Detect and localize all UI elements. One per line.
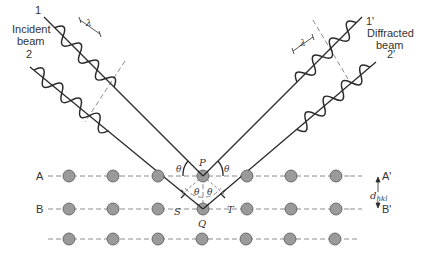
atom bbox=[107, 170, 119, 182]
atom bbox=[152, 170, 164, 182]
atom bbox=[330, 170, 342, 182]
incident-text-line1: Incident bbox=[12, 23, 51, 35]
arrow-head-down bbox=[376, 203, 380, 208]
incident-beam-2 bbox=[30, 67, 203, 209]
angle-arc-left bbox=[183, 161, 188, 176]
wavelength-markers bbox=[79, 17, 314, 54]
atom bbox=[107, 233, 119, 245]
atom bbox=[241, 170, 253, 182]
atom bbox=[285, 170, 297, 182]
angle-arc-right bbox=[218, 161, 223, 176]
incident-lambda-tick-right bbox=[99, 31, 101, 37]
atom bbox=[285, 203, 297, 215]
point-s-label: S bbox=[174, 206, 181, 217]
arrow-head-up bbox=[376, 177, 380, 182]
atom bbox=[196, 233, 208, 245]
atom bbox=[63, 170, 75, 182]
diagram-canvas: λ λ 1 Incident bbox=[0, 0, 425, 263]
spacing-d-label: dhkl bbox=[370, 190, 387, 203]
incident-beam-1-label: 1 bbox=[35, 4, 41, 16]
plane-b-label: B bbox=[36, 203, 43, 215]
atom bbox=[240, 233, 252, 245]
incident-beam-2-label: 2 bbox=[26, 48, 32, 60]
diffracted-lambda-tick-left bbox=[292, 48, 294, 54]
atom bbox=[63, 203, 75, 215]
spacing-arrow bbox=[376, 177, 380, 208]
diffracted-beam-2-label: 2' bbox=[387, 48, 395, 60]
diffracted-wavefront bbox=[313, 20, 348, 79]
atom bbox=[107, 203, 119, 215]
incident-beam-1 bbox=[44, 17, 203, 176]
diffracted-text-line1: Diffracted bbox=[367, 27, 414, 39]
incident-text-line2: beam bbox=[17, 35, 45, 47]
diffracted-lambda-tick-right bbox=[312, 34, 314, 40]
bragg-diffraction-diagram: λ λ 1 Incident bbox=[0, 0, 425, 263]
point-p-label: P bbox=[198, 157, 206, 168]
incident-lambda-symbol: λ bbox=[85, 18, 92, 28]
point-q-label: Q bbox=[198, 218, 206, 229]
atoms bbox=[63, 170, 342, 245]
plane-a-label: A bbox=[36, 170, 44, 182]
plane-a-prime-label: A' bbox=[382, 170, 391, 182]
atom bbox=[152, 233, 164, 245]
atom bbox=[284, 233, 296, 245]
atom bbox=[241, 203, 253, 215]
diffracted-beam-1-label: 1' bbox=[366, 15, 374, 27]
theta-lower-right: θ bbox=[207, 187, 213, 197]
atom bbox=[63, 233, 75, 245]
theta-diffracted: θ bbox=[224, 164, 230, 174]
atom bbox=[152, 203, 164, 215]
atom bbox=[330, 203, 342, 215]
diffracted-beam-2 bbox=[203, 62, 376, 209]
theta-lower-left: θ bbox=[194, 187, 200, 197]
plane-b-prime-label: B' bbox=[382, 203, 391, 215]
diffracted-beam-1 bbox=[203, 17, 362, 176]
atom bbox=[329, 233, 341, 245]
diffracted-lambda-symbol: λ bbox=[299, 38, 306, 48]
incident-lambda-tick-left bbox=[79, 17, 81, 23]
theta-incident: θ bbox=[176, 164, 182, 174]
spacing-subscript: hkl bbox=[376, 195, 387, 203]
